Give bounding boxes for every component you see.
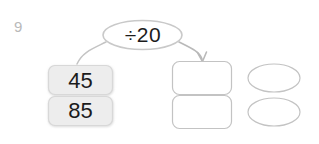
- answer-oval-2-value[interactable]: [248, 98, 300, 127]
- answer-box-2-value[interactable]: [172, 96, 232, 129]
- answer-box-1-value[interactable]: [172, 62, 232, 94]
- input-box-1-value: 45: [48, 66, 113, 95]
- worksheet-canvas: 9 ÷20 45 85: [0, 0, 319, 144]
- operation-label: ÷20: [103, 22, 183, 48]
- input-box-2-value: 85: [48, 96, 113, 126]
- connector-left-curve: [77, 42, 106, 64]
- question-number: 9: [14, 18, 22, 35]
- connector-right-arrow: [179, 42, 207, 62]
- answer-oval-1-value[interactable]: [248, 64, 300, 92]
